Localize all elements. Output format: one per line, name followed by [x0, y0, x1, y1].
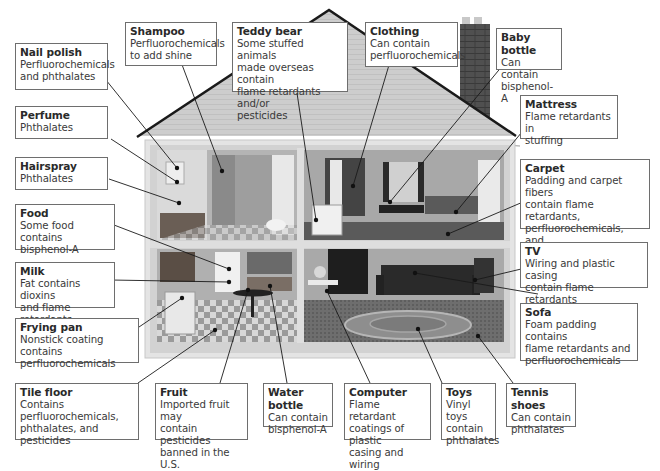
callout-title: Fruit: [160, 386, 243, 399]
callout-fruit: Fruit Imported fruit may contain pestici…: [155, 383, 248, 440]
callout-water-bottle: Water bottle Can contain bisphenol-A: [263, 383, 333, 427]
callout-computer: Computer Flame retardant coatings of pla…: [344, 383, 431, 440]
callout-hairspray: Hairspray Phthalates: [15, 157, 108, 190]
callout-description: Perfluorochemicals and phthalates: [20, 59, 103, 83]
callout-title: Tile floor: [20, 386, 134, 399]
callout-baby-bottle: Baby bottle Can contain bisphenol-A: [496, 28, 562, 70]
callout-description: Imported fruit may contain pesticides ba…: [160, 399, 243, 471]
callout-description: Nonstick coating contains perfluorochemi…: [20, 334, 134, 370]
callout-title: Teddy bear: [237, 25, 343, 38]
callout-description: Perfluorochemicals to add shine: [130, 38, 212, 62]
callout-clothing: Clothing Can contain perfluorochemicals: [365, 22, 458, 67]
callout-description: Some stuffed animals made overseas conta…: [237, 38, 343, 122]
callout-title: Milk: [20, 265, 110, 278]
callout-tv: TV Wiring and plastic casing contain fla…: [520, 242, 648, 288]
callout-description: Foam padding contains flame retardants a…: [525, 319, 633, 367]
callout-milk: Milk Fat contains dioxins and flame reta…: [15, 262, 115, 308]
callout-description: Phthalates: [20, 122, 103, 134]
callout-title: Frying pan: [20, 321, 134, 334]
kitchen: [157, 249, 297, 342]
callout-description: Flame retardant coatings of plastic casi…: [349, 399, 426, 471]
callout-description: Can contain perfluorochemicals: [370, 38, 453, 62]
callout-description: Vinyl toys contain phthalates: [446, 399, 491, 447]
callout-title: Tennis shoes: [511, 386, 571, 412]
callout-tile-floor: Tile floor Contains perfluorochemicals, …: [15, 383, 139, 440]
callout-mattress: Mattress Flame retardants in stuffing: [520, 95, 618, 139]
callout-title: Shampoo: [130, 25, 212, 38]
callout-title: Baby bottle: [501, 31, 557, 57]
bathroom: [157, 150, 297, 240]
callout-food: Food Some food contains bisphenol-A: [15, 204, 115, 250]
callout-title: Food: [20, 207, 110, 220]
callout-description: Some food contains bisphenol-A: [20, 220, 110, 256]
callout-perfume: Perfume Phthalates: [15, 106, 108, 139]
callout-frying-pan: Frying pan Nonstick coating contains per…: [15, 318, 139, 363]
bedroom: [304, 150, 504, 240]
callout-shampoo: Shampoo Perfluorochemicals to add shine: [125, 22, 217, 66]
callout-nail-polish: Nail polish Perfluorochemicals and phtha…: [15, 43, 108, 90]
callout-toys: Toys Vinyl toys contain phthalates: [441, 383, 496, 440]
callout-sofa: Sofa Foam padding contains flame retarda…: [520, 303, 638, 361]
wall-divider: [297, 148, 304, 343]
callout-description: Wiring and plastic casing contain flame …: [525, 258, 643, 306]
callout-tennis-shoes: Tennis shoes Can contain phthalates: [506, 383, 576, 427]
callout-description: Can contain bisphenol-A: [268, 412, 328, 436]
callout-description: Contains perfluorochemicals, phthalates,…: [20, 399, 134, 447]
callout-title: Hairspray: [20, 160, 103, 173]
callout-title: Clothing: [370, 25, 453, 38]
callout-title: Nail polish: [20, 46, 103, 59]
living-room: [304, 249, 504, 342]
callout-description: Phthalates: [20, 173, 103, 185]
callout-carpet: Carpet Padding and carpet fibers contain…: [520, 159, 650, 229]
callout-title: Carpet: [525, 162, 645, 175]
callout-title: Perfume: [20, 109, 103, 122]
callout-teddy-bear: Teddy bear Some stuffed animals made ove…: [232, 22, 348, 92]
callout-title: TV: [525, 245, 643, 258]
callout-description: Can contain phthalates: [511, 412, 571, 436]
callout-description: Flame retardants in stuffing: [525, 111, 613, 147]
callout-title: Sofa: [525, 306, 633, 319]
callout-title: Computer: [349, 386, 426, 399]
callout-title: Mattress: [525, 98, 613, 111]
floor-divider: [150, 241, 510, 248]
callout-title: Toys: [446, 386, 491, 399]
callout-title: Water bottle: [268, 386, 328, 412]
